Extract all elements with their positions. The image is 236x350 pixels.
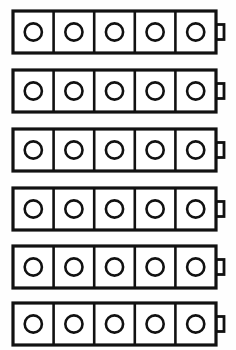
battery-rows-group [13,11,224,345]
battery-cell-circle-icon [187,315,204,332]
battery-cell-circle-icon [106,82,123,99]
battery-cell-circle-icon [106,141,123,158]
battery-row-2 [13,70,224,112]
battery-cell-circle-icon [106,23,123,40]
battery-cell-circle-icon [106,315,123,332]
battery-cell-circle-icon [147,141,164,158]
battery-row-3 [13,129,224,171]
battery-cell-circle-icon [65,315,82,332]
battery-cell-circle-icon [147,315,164,332]
battery-row-1 [13,11,224,53]
battery-cell-circle-icon [147,200,164,217]
battery-cell-circle-icon [65,200,82,217]
battery-row-4 [13,188,224,230]
battery-row-6 [13,303,224,345]
battery-cell-circle-icon [187,200,204,217]
battery-cell-circle-icon [106,200,123,217]
battery-cell-circle-icon [65,82,82,99]
battery-cell-circle-icon [187,23,204,40]
battery-cell-circle-icon [147,82,164,99]
battery-stack [0,0,236,350]
battery-cell-circle-icon [65,258,82,275]
battery-cell-circle-icon [25,200,42,217]
battery-cell-circle-icon [65,141,82,158]
battery-cell-circle-icon [25,82,42,99]
battery-cell-circle-icon [147,23,164,40]
battery-row-5 [13,246,224,288]
battery-cell-circle-icon [187,258,204,275]
battery-cell-circle-icon [65,23,82,40]
battery-cell-circle-icon [25,315,42,332]
battery-cell-circle-icon [25,258,42,275]
battery-diagram [0,0,236,350]
battery-cell-circle-icon [187,82,204,99]
battery-cell-circle-icon [106,258,123,275]
battery-cell-circle-icon [147,258,164,275]
battery-cell-circle-icon [25,141,42,158]
battery-canvas [0,0,236,350]
battery-cell-circle-icon [25,23,42,40]
battery-cell-circle-icon [187,141,204,158]
